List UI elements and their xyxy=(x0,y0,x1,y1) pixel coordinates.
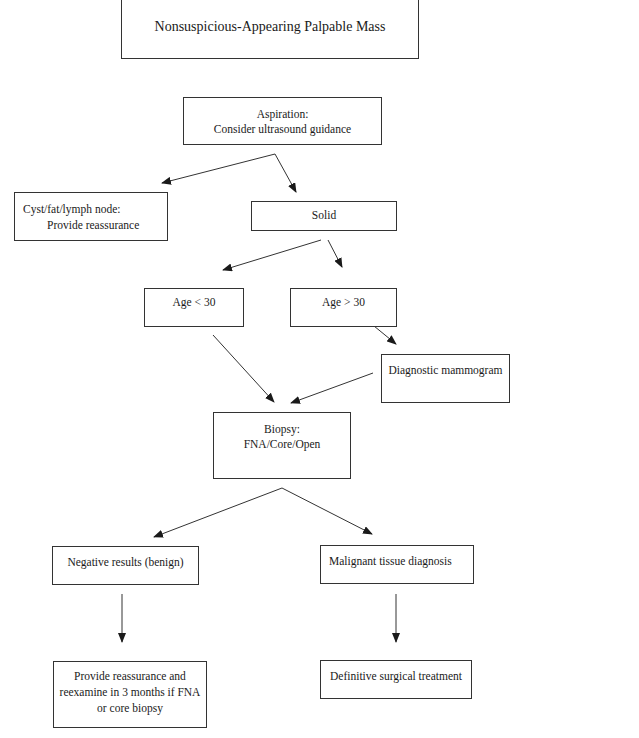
node-malignant: Malignant tissue diagnosis xyxy=(320,545,474,584)
arrow-biopsy-to-negative xyxy=(154,488,282,537)
node-biopsy-line2: FNA/Core/Open xyxy=(214,437,350,452)
node-malignant-label: Malignant tissue diagnosis xyxy=(329,554,452,569)
node-aspiration: Aspiration: Consider ultrasound guidance xyxy=(183,97,382,145)
arrow-aspiration-to-solid xyxy=(275,154,296,192)
arrow-age-over-30-to-mammogram xyxy=(374,326,396,344)
node-age-under-30-label: Age < 30 xyxy=(145,295,243,310)
node-surgery: Definitive surgical treatment xyxy=(320,660,472,699)
node-mammogram-label: Diagnostic mammogram xyxy=(382,363,509,378)
node-cyst-line2: Provide reassurance xyxy=(47,218,139,233)
node-negative: Negative results (benign) xyxy=(52,546,199,585)
arrow-solid-to-age-under-30 xyxy=(223,240,321,270)
node-start-label: Nonsuspicious-Appearing Palpable Mass xyxy=(122,19,418,34)
node-negative-label: Negative results (benign) xyxy=(53,555,198,570)
node-cyst-line1: Cyst/fat/lymph node: xyxy=(23,202,120,217)
arrow-aspiration-to-cyst xyxy=(162,154,275,183)
node-aspiration-line2: Consider ultrasound guidance xyxy=(184,122,381,137)
node-surgery-label: Definitive surgical treatment xyxy=(321,669,471,684)
node-biopsy: Biopsy: FNA/Core/Open xyxy=(213,412,351,479)
node-reassure-line2: reexamine in 3 months if FNA xyxy=(54,685,206,700)
node-age-over-30: Age > 30 xyxy=(290,288,397,327)
node-cyst: Cyst/fat/lymph node: Provide reassurance xyxy=(14,192,168,241)
node-solid: Solid xyxy=(251,201,397,231)
arrow-mammogram-to-biopsy xyxy=(291,373,373,403)
arrow-age-under-30-to-biopsy xyxy=(213,335,274,402)
node-reassure-line3: or core biopsy xyxy=(54,701,206,716)
node-mammogram: Diagnostic mammogram xyxy=(381,354,510,403)
node-age-over-30-label: Age > 30 xyxy=(291,295,396,310)
node-reassure: Provide reassurance and reexamine in 3 m… xyxy=(53,661,207,728)
node-reassure-line1: Provide reassurance and xyxy=(54,669,206,684)
node-solid-label: Solid xyxy=(252,208,396,223)
arrow-solid-to-age-over-30 xyxy=(328,240,342,267)
node-start: Nonsuspicious-Appearing Palpable Mass xyxy=(121,0,419,59)
node-age-under-30: Age < 30 xyxy=(144,288,244,327)
node-biopsy-line1: Biopsy: xyxy=(214,422,350,437)
arrow-biopsy-to-malignant xyxy=(282,488,372,534)
node-aspiration-line1: Aspiration: xyxy=(184,107,381,122)
